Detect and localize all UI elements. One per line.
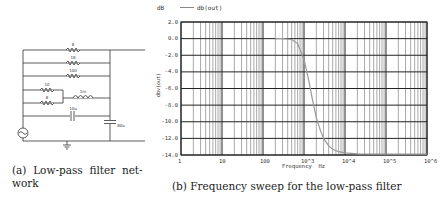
x-tick-label: 1 [178,158,181,164]
y-tick-label: 2.0 [168,19,178,25]
y-tick-label: 0.0 [168,35,178,41]
y-tick-label: -8.0 [165,102,178,108]
y-axis-label: dbv(out) [155,65,161,105]
y-tick-label: -10.0 [161,118,178,124]
y-tick-label: -4.0 [165,68,178,74]
x-tick-label: 10^5 [383,158,396,164]
y-tick-label: -14.0 [161,152,178,158]
x-tick-label: 10^4 [342,158,355,164]
y-tick-label: -2.0 [165,52,178,58]
x-axis-label: Frequency Hz [282,163,325,169]
x-tick-label: 10^6 [424,158,437,164]
x-tick-label: 100 [260,158,270,164]
y-tick-label: -12.0 [161,135,178,141]
caption-b: (b) Frequency sweep for the low-pass fil… [172,180,401,193]
frequency-sweep-plot [0,0,447,202]
y-tick-label: -6.0 [165,85,178,91]
x-tick-label: 10 [219,158,226,164]
series-line-db-out [275,39,427,155]
